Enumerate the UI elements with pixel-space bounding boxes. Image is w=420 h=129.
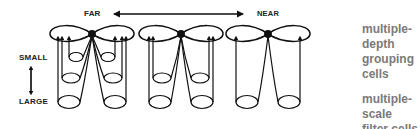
far-filter-cells (58, 36, 126, 109)
middle-filter-cells (149, 36, 213, 109)
diagram (0, 0, 420, 129)
near-filter-cells (236, 36, 300, 109)
